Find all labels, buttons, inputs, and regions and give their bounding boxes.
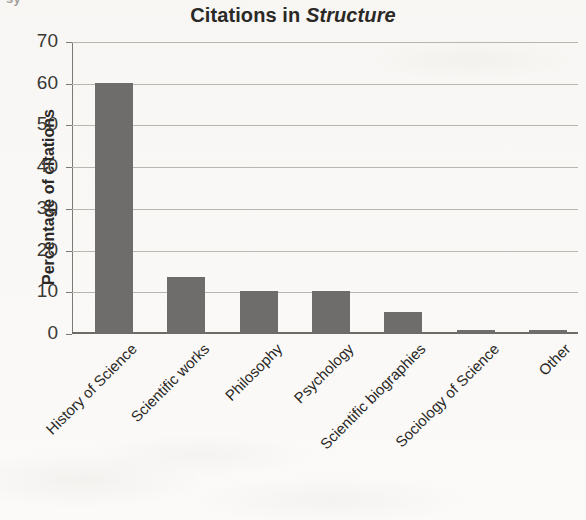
x-axis-label: Scientific works <box>128 340 213 425</box>
bar <box>457 330 495 333</box>
y-axis-tick-mark <box>66 209 72 210</box>
bar <box>312 291 350 333</box>
y-axis-line <box>72 42 73 334</box>
y-axis-tick-mark <box>66 334 72 335</box>
y-axis-tick-mark <box>66 167 72 168</box>
y-axis-tick-mark <box>66 292 72 293</box>
y-axis-tick-label: 40 <box>14 155 58 177</box>
plot-area: 706050403020100 <box>72 42 578 334</box>
bar <box>95 83 133 333</box>
gridline <box>72 125 578 126</box>
x-axis-label: History of Science <box>43 340 141 438</box>
y-axis-tick-label: 30 <box>14 197 58 219</box>
gridline <box>72 209 578 210</box>
y-axis-tick-mark <box>66 251 72 252</box>
chart-title-plain: Citations in <box>190 4 306 26</box>
x-axis-label: Philosophy <box>221 340 285 404</box>
chart-title: Citations in Structure <box>0 4 586 27</box>
y-axis-tick-label: 20 <box>14 239 58 261</box>
bar <box>529 330 567 333</box>
gridline <box>72 251 578 252</box>
y-axis-tick-label: 70 <box>14 30 58 52</box>
chart-title-italic: Structure <box>306 4 396 26</box>
y-axis-tick-mark <box>66 42 72 43</box>
bar <box>384 312 422 333</box>
gridline <box>72 42 578 43</box>
gridline <box>72 167 578 168</box>
gridline <box>72 84 578 85</box>
x-axis-label: Psychology <box>290 340 356 406</box>
y-axis-tick-label: 50 <box>14 113 58 135</box>
y-axis-tick-label: 10 <box>14 280 58 302</box>
bar-chart: sy Citations in Structure Percentage of … <box>0 0 586 520</box>
x-axis-labels-group: History of ScienceScientific worksPhilos… <box>72 336 578 520</box>
bar <box>240 291 278 333</box>
y-axis-tick-label: 60 <box>14 72 58 94</box>
y-axis-tick-mark <box>66 125 72 126</box>
y-axis-tick-label: 0 <box>14 322 58 344</box>
y-axis-tick-mark <box>66 84 72 85</box>
x-axis-label: Other <box>535 340 574 379</box>
bar <box>167 277 205 333</box>
